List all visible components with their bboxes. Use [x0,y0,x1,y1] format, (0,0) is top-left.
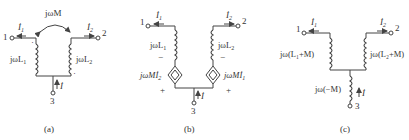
terminal-1 [302,31,306,35]
inductor-l1 [36,44,38,74]
inductor-1-label: jω(L₁+M) [279,49,314,59]
circuit-figure: 1 İ1 · jωL1 jωM 2 İ2 · jωL2 3 İ (a) 1 [0,0,409,140]
terminal-3 [348,104,352,108]
port-1-label: 1 [296,24,301,34]
terminal-2 [96,36,100,40]
port-3-label: 3 [191,106,196,116]
caption-a: (a) [44,124,54,134]
mutual-coupling-arrow [40,25,70,32]
current-1-label: İ1 [155,10,162,21]
plus-2: + [226,85,231,95]
port-2-label: 2 [102,28,107,38]
dependent-source-1 [168,66,182,84]
terminal-1 [10,36,14,40]
dependent-source-2 [206,66,220,84]
mutual-label: jωM [44,8,61,18]
terminal-3 [192,101,196,105]
caption-b: (b) [184,124,195,134]
inductor-l2-label: jωL2 [217,40,234,51]
dot-2: · [73,68,76,78]
port-2-label: 2 [242,16,247,26]
terminal-1 [146,24,150,28]
inductor-l2-label: jωL2 [75,54,92,65]
port-1-label: 1 [140,17,145,27]
inductor-l1 [175,30,177,60]
caption-c: (c) [340,124,350,134]
current-3-label: İ [361,88,366,98]
panel-a: 1 İ1 · jωL1 jωM 2 İ2 · jωL2 3 İ (a) [3,8,107,134]
current-3-label: İ [59,81,64,91]
plus-1: + [160,85,165,95]
inductor-2-label: jω(L₂+M) [369,49,404,59]
port-3-label: 3 [355,101,360,111]
minus-1: − [158,52,163,62]
current-2-label: İ2 [225,10,232,21]
terminal-2 [236,24,240,28]
terminal-2 [389,31,393,35]
current-2-label: İ2 [379,17,386,28]
inductor-l2 [69,44,71,74]
source-1-label: jωMİ2 [139,70,161,81]
inductor-l2-plus-m [364,38,366,68]
dot-1: · [31,37,34,47]
inductor-l1-label: jωL1 [9,54,26,65]
inductor-3-label: jω(−M) [314,84,341,94]
current-1-label: İ1 [17,22,24,33]
port-3-label: 3 [50,96,55,106]
current-1-label: İ1 [310,17,317,28]
panel-b: 1 İ1 jωL1 − jωMİ2 + 2 İ2 jωL2 − jωMİ1 + … [139,10,247,134]
minus-2: − [220,52,225,62]
port-1-label: 1 [3,32,8,42]
port-2-label: 2 [395,23,400,33]
inductor-l1-label: jωL1 [149,40,166,51]
current-2-label: İ2 [86,22,93,33]
source-2-label: jωMİ1 [223,70,245,81]
inductor-l2 [211,30,213,60]
panel-c: 1 İ1 jω(L₁+M) 2 İ2 jω(L₂+M) 3 jω(−M) İ (… [279,17,404,134]
inductor-l1-plus-m [330,38,332,68]
current-3-label: İ [200,91,205,101]
terminal-3 [51,91,55,95]
inductor-minus-m [350,76,352,101]
